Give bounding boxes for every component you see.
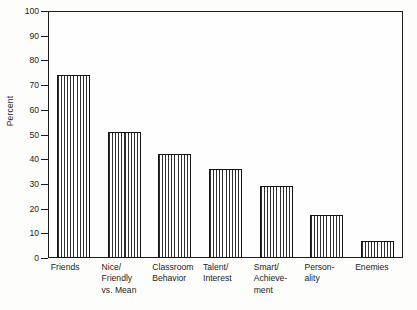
x-axis-label: Smart/ Achieve- ment [254,262,287,296]
x-axis-label: Friends [51,262,80,273]
y-tick [41,85,48,86]
y-tick-label: 40 [15,154,39,164]
x-axis-label: Enemies [355,262,388,273]
y-tick [41,135,48,136]
bar [209,169,242,258]
y-tick-label: 10 [15,228,39,238]
x-axis-label: Person- ality [304,262,334,285]
y-tick [41,258,48,259]
bar [361,241,394,258]
x-axis-label: Classroom Behavior [152,262,193,285]
x-axis-labels: FriendsNice/ Friendly vs. MeanClassroom … [48,262,403,310]
y-axis-title: Percent [5,81,15,141]
y-tick-label: 50 [15,129,39,139]
bar [310,215,343,258]
y-tick-label: 60 [15,104,39,114]
y-tick-label: 20 [15,203,39,213]
y-tick [41,36,48,37]
y-tick [41,233,48,234]
y-tick-label: 30 [15,178,39,188]
y-tick [41,184,48,185]
y-tick [41,209,48,210]
x-axis-label: Talent/ Interest [203,262,232,285]
y-tick [41,60,48,61]
x-axis-label: Nice/ Friendly vs. Mean [102,262,137,296]
y-tick-label: 80 [15,55,39,65]
bars-layer [48,11,403,258]
y-tick-label: 90 [15,30,39,40]
y-tick [41,159,48,160]
bar [158,154,191,258]
y-tick-label: 70 [15,80,39,90]
y-tick-label: 100 [15,6,39,16]
y-tick-label: 0 [15,253,39,263]
y-tick [41,110,48,111]
bar-chart: Percent 1009080706050403020100 FriendsNi… [0,0,417,310]
bar [108,132,141,258]
bar [57,75,90,258]
bar [260,186,293,258]
y-tick [41,11,48,12]
